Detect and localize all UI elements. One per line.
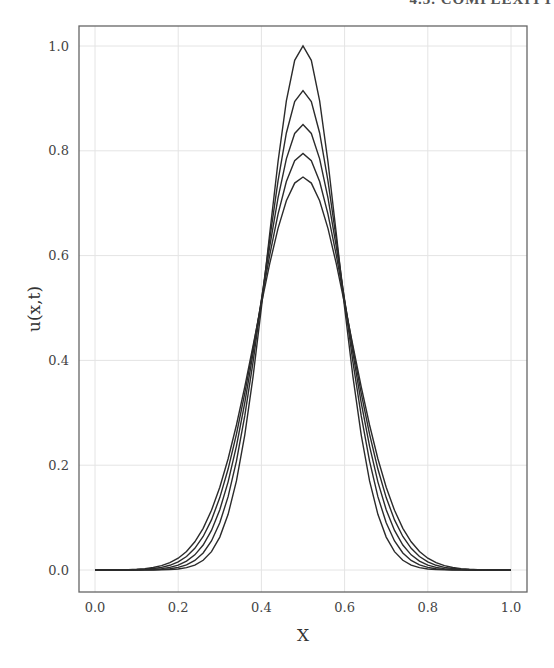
y-tick-label: 0.8 (48, 143, 69, 158)
curve-t3 (95, 153, 511, 570)
x-tick-label: 0.4 (251, 600, 272, 615)
x-tick-label: 0.2 (168, 600, 189, 615)
x-tick-label: 0.8 (417, 600, 438, 615)
x-tick-label: 0.6 (334, 600, 355, 615)
curve-t2 (95, 125, 511, 570)
line-chart: 0.00.20.40.60.81.0 0.00.20.40.60.81.0 X … (0, 0, 554, 668)
y-tick-label: 0.6 (48, 248, 69, 263)
y-tick-label: 1.0 (48, 39, 69, 54)
x-tick-label: 0.0 (85, 600, 106, 615)
y-tick-label: 0.4 (48, 353, 69, 368)
x-axis-ticks: 0.00.20.40.60.81.0 (85, 600, 522, 615)
y-axis-label: u(x,t) (24, 286, 44, 332)
curves (95, 46, 511, 570)
x-tick-label: 1.0 (501, 600, 522, 615)
y-axis-ticks: 0.00.20.40.60.81.0 (48, 39, 69, 578)
y-tick-label: 0.2 (48, 458, 69, 473)
y-tick-label: 0.0 (48, 563, 69, 578)
plot-frame (79, 26, 527, 592)
grid-lines (79, 26, 527, 592)
x-axis-label: X (297, 625, 310, 645)
curve-t1 (95, 91, 511, 570)
curve-t4 (95, 177, 511, 570)
